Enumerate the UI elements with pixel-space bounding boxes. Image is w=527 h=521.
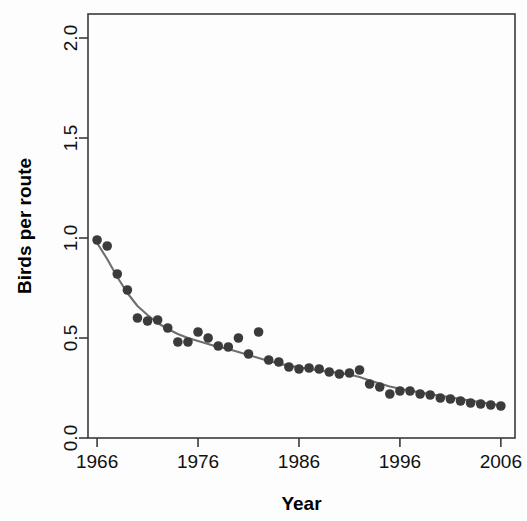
data-point [456, 396, 466, 406]
data-point [133, 313, 143, 323]
data-point [304, 363, 314, 373]
data-point [415, 389, 425, 399]
data-point [314, 364, 324, 374]
data-point [203, 333, 213, 343]
plot-frame [88, 14, 515, 438]
data-point [466, 398, 476, 408]
data-point [395, 386, 405, 396]
data-point [183, 337, 193, 347]
x-tick-label: 1966 [76, 451, 118, 472]
x-tick-label: 1976 [177, 451, 219, 472]
data-point [254, 327, 264, 337]
data-point [365, 379, 375, 389]
data-point [405, 386, 415, 396]
data-point [324, 367, 334, 377]
data-point [486, 400, 496, 410]
data-point [496, 401, 506, 411]
data-point [123, 285, 133, 295]
plot-border [88, 14, 515, 438]
data-point [92, 235, 102, 245]
data-point [345, 368, 355, 378]
data-point [425, 390, 435, 400]
data-point [112, 269, 122, 279]
x-axis-ticks: 19661976198619962006 [76, 438, 522, 472]
data-point [274, 357, 284, 367]
y-tick-label: 1.5 [60, 125, 81, 151]
data-point [446, 394, 456, 404]
y-axis-title: Birds per route [14, 158, 35, 294]
x-tick-label: 2006 [480, 451, 522, 472]
data-point [213, 341, 223, 351]
data-point [385, 389, 395, 399]
data-point [234, 333, 244, 343]
x-tick-label: 1996 [379, 451, 421, 472]
data-point [375, 382, 385, 392]
data-points-group [92, 235, 505, 411]
data-point [102, 241, 112, 251]
data-point [335, 369, 345, 379]
data-point [264, 355, 274, 365]
data-point [224, 342, 234, 352]
data-point [294, 364, 304, 374]
chart-figure: 19661976198619962006 0.00.51.01.52.0 Yea… [0, 0, 527, 521]
data-point [173, 337, 183, 347]
y-tick-label: 1.0 [60, 225, 81, 251]
data-point [153, 315, 163, 325]
y-tick-label: 0.0 [60, 425, 81, 451]
data-point [244, 349, 254, 359]
x-tick-label: 1986 [278, 451, 320, 472]
data-point [284, 362, 294, 372]
data-point [436, 393, 446, 403]
scatter-plot-svg: 19661976198619962006 0.00.51.01.52.0 Yea… [0, 0, 527, 521]
data-point [355, 365, 365, 375]
data-point [193, 327, 203, 337]
data-point [476, 399, 486, 409]
y-tick-label: 2.0 [60, 25, 81, 51]
x-axis-title: Year [281, 493, 322, 514]
data-point [163, 323, 173, 333]
y-tick-label: 0.5 [60, 325, 81, 351]
y-axis-ticks: 0.00.51.01.52.0 [60, 25, 89, 451]
data-point [143, 316, 153, 326]
